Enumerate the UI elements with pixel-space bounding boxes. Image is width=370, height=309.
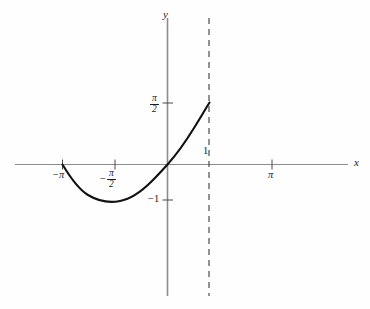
fraction-denominator: 2 <box>150 105 159 115</box>
x-tick-label-pi: π <box>268 170 273 181</box>
x-tick-label-neg-pi-over-2: − π 2 <box>100 169 116 189</box>
function-curve <box>63 103 210 202</box>
y-tick-label-neg-1: −1 <box>148 194 159 205</box>
plot-area <box>0 0 370 309</box>
y-tick-label-pi-over-2: π 2 <box>150 94 159 114</box>
graph-figure: y x −π − π 2 1 π π 2 −1 <box>0 0 370 309</box>
x-tick-label-neg-pi: −π <box>52 170 64 181</box>
x-axis-label: x <box>354 157 359 168</box>
y-axis-label: y <box>163 9 168 20</box>
asymptote-label-one: 1 <box>203 146 208 157</box>
fraction-denominator: 2 <box>107 180 116 190</box>
minus-sign: − <box>100 174 106 185</box>
